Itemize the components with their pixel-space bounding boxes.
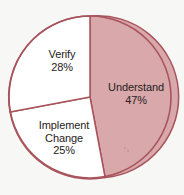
pie-slice-understand [90,16,179,178]
pie-slice-verify [9,16,90,112]
pie-chart: Understand 47% Verify 28% Implement Chan… [0,0,184,195]
pie-chart-graphic [0,0,184,195]
